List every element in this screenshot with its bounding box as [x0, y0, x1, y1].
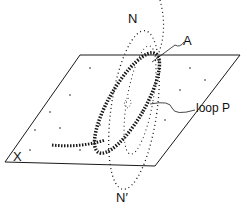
loop-tail [52, 140, 105, 146]
diagram-canvas: N A loop P X N′ [0, 0, 241, 206]
label-a: A [183, 34, 192, 47]
field-loop-outer [100, 28, 168, 193]
pointer-loop-p [150, 103, 195, 113]
label-n-prime: N′ [116, 191, 128, 204]
scatter-dots [29, 67, 206, 151]
field-loop-inner [118, 44, 163, 157]
field-line-top [158, 0, 164, 55]
label-n: N [128, 12, 137, 25]
label-loop-p: loop P [196, 102, 230, 114]
label-x: X [13, 150, 22, 163]
pointer-a [152, 42, 184, 62]
